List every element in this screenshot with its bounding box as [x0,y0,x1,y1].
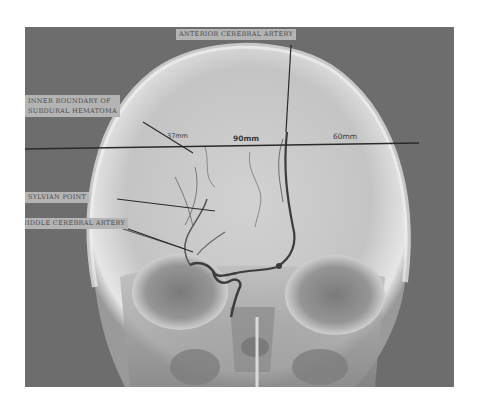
measurement-left: 37mm [167,132,188,140]
label-text-line1: INNER BOUNDARY OF [28,96,117,106]
skull-radiograph: ANTERIOR CEREBRAL ARTERY INNER BOUNDARY … [25,27,454,387]
label-text: SYLVIAN POINT [28,193,86,201]
label-sylvian-point: SYLVIAN POINT [25,192,89,203]
measurement-center: 90mm [233,134,259,143]
label-middle-cerebral-artery: MIDDLE CEREBRAL ARTERY [25,218,128,229]
radiograph-drawing [25,27,454,387]
label-anterior-cerebral-artery: ANTERIOR CEREBRAL ARTERY [176,29,296,40]
label-text: MIDDLE CEREBRAL ARTERY [25,219,125,227]
measurement-right: 60mm [333,132,357,141]
label-text: ANTERIOR CEREBRAL ARTERY [179,30,293,38]
label-inner-boundary-subdural-hematoma: INNER BOUNDARY OF SUBDURAL HEMATOMA [25,95,120,117]
label-text-line2: SUBDURAL HEMATOMA [28,106,117,116]
